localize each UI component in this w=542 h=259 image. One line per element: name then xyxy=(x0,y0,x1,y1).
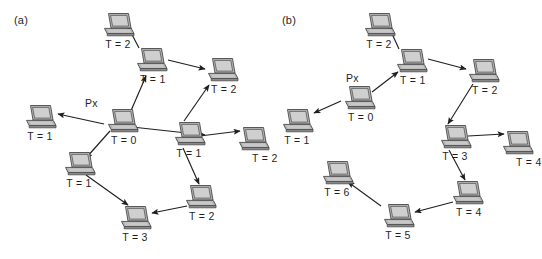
laptop-icon xyxy=(62,151,96,177)
node-time-label: T = 1 xyxy=(176,147,202,159)
peer-node: T = 4 xyxy=(500,130,534,156)
node-time-label: T = 4 xyxy=(456,206,482,218)
node-time-label: T = 6 xyxy=(324,186,350,198)
node-time-label: T = 1 xyxy=(284,134,310,146)
peer-node: T = 1 xyxy=(280,108,314,134)
peer-node: T = 2 xyxy=(101,12,135,38)
laptop-icon xyxy=(381,203,415,229)
laptop-icon xyxy=(23,104,57,130)
peer-node: T = 6 xyxy=(320,160,354,186)
laptop-icon xyxy=(438,124,472,150)
peer-node: T = 4 xyxy=(450,180,484,206)
laptop-icon xyxy=(466,58,500,84)
propagation-edge xyxy=(86,175,128,205)
propagation-edge xyxy=(58,114,104,124)
propagation-edge xyxy=(152,206,187,213)
node-time-label: T = 2 xyxy=(472,84,498,96)
panel-b-origin-tag: Px xyxy=(346,72,359,84)
laptop-icon xyxy=(105,108,139,134)
peer-node: T = 2 xyxy=(183,184,217,210)
laptop-icon xyxy=(394,48,428,74)
peer-node: T = 1 xyxy=(172,121,206,147)
node-time-label: T = 3 xyxy=(122,231,148,243)
propagation-edge xyxy=(448,84,473,124)
node-time-label: T = 2 xyxy=(189,210,215,222)
panel-a: (a) T = 2 T = 1 T = 2 xyxy=(0,0,268,259)
laptop-icon xyxy=(101,12,135,38)
node-time-label: T = 1 xyxy=(66,177,92,189)
peer-node: T = 2 xyxy=(466,58,500,84)
laptop-icon xyxy=(500,130,534,156)
peer-node: T = 1 xyxy=(23,104,57,130)
panel-b: (b) T = 2 T = 1 T = 2 xyxy=(268,0,536,259)
peer-node: T = 1 xyxy=(134,47,168,73)
propagation-edge xyxy=(168,60,205,69)
peer-node: T = 2 xyxy=(362,12,396,38)
node-time-label: T = 5 xyxy=(385,229,411,241)
laptop-icon xyxy=(205,57,239,83)
laptop-icon xyxy=(118,205,152,231)
propagation-edge xyxy=(468,134,504,136)
panel-a-origin-tag: Px xyxy=(85,97,98,109)
node-time-label: T = 0 xyxy=(348,111,374,123)
node-time-label: T = 2 xyxy=(366,38,392,50)
laptop-icon xyxy=(183,184,217,210)
peer-node: T = 1 xyxy=(62,151,96,177)
laptop-icon xyxy=(320,160,354,186)
laptop-icon xyxy=(280,108,314,134)
peer-node: T = 1 xyxy=(394,48,428,74)
laptop-icon xyxy=(450,180,484,206)
node-time-label: T = 0 xyxy=(111,134,137,146)
peer-node: T = 0 xyxy=(342,85,376,111)
laptop-icon xyxy=(134,47,168,73)
laptop-icon xyxy=(172,121,206,147)
peer-node: T = 2 xyxy=(205,57,239,83)
peer-node: T = 3 xyxy=(118,205,152,231)
node-time-label: T = 4 xyxy=(516,156,542,168)
laptop-icon xyxy=(236,126,270,152)
laptop-icon xyxy=(342,85,376,111)
propagation-edge xyxy=(314,101,341,113)
node-time-label: T = 1 xyxy=(27,130,53,142)
propagation-edge xyxy=(415,202,453,212)
node-time-label: T = 1 xyxy=(140,73,166,85)
laptop-icon xyxy=(362,12,396,38)
propagation-edge xyxy=(428,59,466,69)
node-time-label: T = 2 xyxy=(211,83,237,95)
propagation-edge xyxy=(200,131,240,136)
peer-node: T = 0 xyxy=(105,108,139,134)
peer-node: T = 2 xyxy=(236,126,270,152)
node-time-label: T = 1 xyxy=(400,74,426,86)
node-time-label: T = 3 xyxy=(442,150,468,162)
propagation-edge xyxy=(184,85,209,121)
peer-node: T = 5 xyxy=(381,203,415,229)
node-time-label: T = 2 xyxy=(105,38,131,50)
peer-node: T = 3 xyxy=(438,124,472,150)
